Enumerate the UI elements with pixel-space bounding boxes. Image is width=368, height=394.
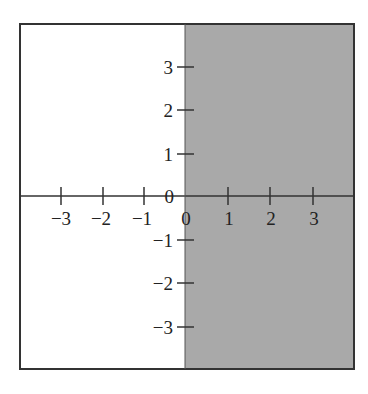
x-tick-label: 1 xyxy=(224,208,234,229)
x-tick-label: −1 xyxy=(132,208,152,229)
y-tick-label: 1 xyxy=(164,144,174,165)
x-tick-label: −3 xyxy=(51,208,71,229)
y-tick-label: −3 xyxy=(153,317,173,338)
coordinate-plane-figure: −3 −2 −1 0 1 2 3 3 2 1 0 −1 −2 −3 xyxy=(0,0,368,394)
y-tick-label: 2 xyxy=(164,100,174,121)
x-tick-label: 2 xyxy=(266,208,276,229)
y-tick-label: −2 xyxy=(153,273,173,294)
x-tick-label: 3 xyxy=(309,208,319,229)
y-tick-label: 0 xyxy=(165,186,175,207)
x-tick-label: −2 xyxy=(91,208,111,229)
x-tick-label: 0 xyxy=(181,208,191,229)
y-tick-label: −1 xyxy=(153,230,173,251)
y-tick-label: 3 xyxy=(164,57,174,78)
